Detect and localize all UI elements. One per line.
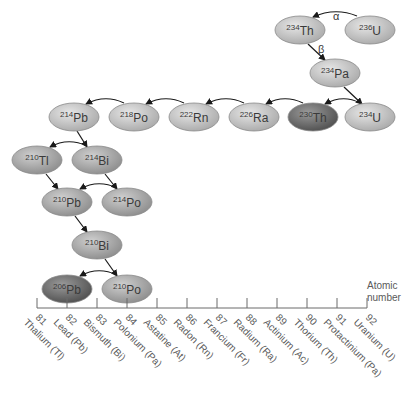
element-symbol: Rn bbox=[193, 111, 208, 125]
element-symbol: Pb bbox=[66, 196, 81, 210]
mass-number: 234 bbox=[321, 66, 335, 75]
arrow-pb214-to-bi214 bbox=[77, 131, 87, 147]
mass-number: 214 bbox=[113, 195, 127, 204]
arrow-po210-to-pb206 bbox=[80, 271, 117, 276]
nuclide-po218: 218Po bbox=[109, 103, 159, 131]
beta-label: β bbox=[318, 43, 324, 55]
mass-number: 210 bbox=[53, 195, 67, 204]
element-symbol: Bi bbox=[98, 239, 109, 253]
arrow-bi214-to-tl210 bbox=[50, 142, 87, 147]
arrow-pa234-to-u234 bbox=[344, 87, 362, 104]
mass-number: 214 bbox=[60, 110, 74, 119]
arrow-rn222-to-po218 bbox=[146, 99, 184, 104]
element-symbol: Pb bbox=[66, 283, 81, 297]
arrow-pb210-to-bi210 bbox=[75, 216, 87, 232]
arrow-ra226-to-rn222 bbox=[206, 99, 244, 104]
element-symbol: Bi bbox=[98, 154, 109, 168]
mass-number: 226 bbox=[240, 110, 254, 119]
nuclide-pb210: 210Pb bbox=[42, 188, 92, 216]
nuclide-u234: 234U bbox=[345, 103, 395, 131]
mass-number: 218 bbox=[120, 110, 134, 119]
arrow-po218-to-pb214 bbox=[86, 99, 124, 104]
nuclide-po214: 214Po bbox=[102, 188, 152, 216]
mass-number: 234 bbox=[359, 110, 373, 119]
arrow-u234-to-th230 bbox=[325, 99, 360, 104]
mass-number: 210 bbox=[85, 238, 99, 247]
nuclide-rn222: 222Rn bbox=[169, 103, 219, 131]
mass-number: 210 bbox=[25, 153, 39, 162]
element-symbol: U bbox=[372, 111, 381, 125]
nuclide-bi210: 210Bi bbox=[72, 231, 122, 259]
element-symbol: Th bbox=[300, 24, 314, 38]
axis-title-line1: Atomic bbox=[367, 280, 398, 291]
element-symbol: Tl bbox=[39, 154, 49, 168]
nuclide-u236: 236U bbox=[345, 16, 395, 44]
nuclide-ra226: 226Ra bbox=[229, 103, 279, 131]
nuclide-pa234: 234Pa bbox=[310, 59, 360, 87]
decay-series-diagram: α β 234Th236U234Pa234U230Th226Ra222Rn218… bbox=[0, 0, 418, 399]
nuclide-pb214: 214Pb bbox=[49, 103, 99, 131]
arrow-th230-to-ra226 bbox=[266, 99, 303, 104]
nuclide-bi214: 214Bi bbox=[72, 146, 122, 174]
nuclide-nodes: 234Th236U234Pa234U230Th226Ra222Rn218Po21… bbox=[12, 16, 395, 303]
element-symbol: Pa bbox=[334, 67, 349, 81]
element-symbol: Po bbox=[126, 196, 141, 210]
mass-number: 230 bbox=[299, 110, 313, 119]
element-symbol: Ra bbox=[253, 111, 269, 125]
nuclide-th230: 230Th bbox=[288, 103, 338, 131]
element-symbol: U bbox=[372, 24, 381, 38]
mass-number: 214 bbox=[85, 153, 99, 162]
mass-number: 234 bbox=[286, 23, 300, 32]
nuclide-th234: 234Th bbox=[275, 16, 325, 44]
mass-number: 236 bbox=[359, 23, 373, 32]
arrow-tl210-to-pb210 bbox=[46, 174, 58, 189]
mass-number: 206 bbox=[53, 282, 67, 291]
arrow-bi210-to-po210 bbox=[105, 259, 117, 276]
alpha-label: α bbox=[333, 10, 340, 22]
element-symbol: Po bbox=[133, 111, 148, 125]
mass-number: 222 bbox=[180, 110, 194, 119]
element-symbol: Pb bbox=[73, 111, 88, 125]
mass-number: 210 bbox=[113, 282, 127, 291]
element-symbol: Th bbox=[313, 111, 327, 125]
arrow-po214-to-pb210 bbox=[80, 184, 117, 189]
element-symbol: Po bbox=[126, 283, 141, 297]
axis-title-line2: number bbox=[367, 292, 402, 303]
nuclide-tl210: 210Tl bbox=[12, 146, 62, 174]
